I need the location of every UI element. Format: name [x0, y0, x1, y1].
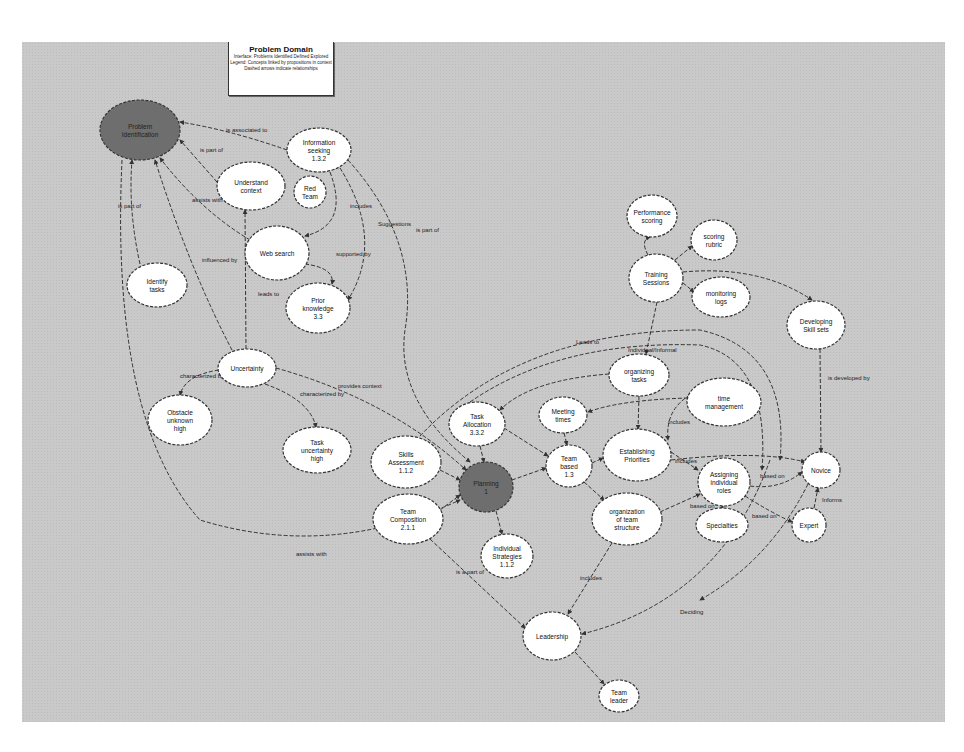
node-identify-tasks[interactable]: Identifytasks [127, 263, 187, 307]
node-red-team[interactable]: RedTeam [294, 176, 326, 208]
node-label: Training [644, 271, 668, 279]
node-organizing-tasks[interactable]: organizingtasks [609, 354, 669, 396]
node-planning[interactable]: Planning1 [459, 462, 513, 512]
node-label: Expert [800, 522, 819, 530]
edge-label: Suggestions [378, 221, 411, 227]
edge-label: assists with [296, 551, 327, 557]
edge-label: is associated to [226, 127, 268, 133]
node-label: Team [302, 193, 318, 200]
edge-training_sessions-to-monitoring_logs [683, 283, 694, 292]
node-label: time [718, 395, 731, 402]
edge-label: includes [580, 575, 602, 581]
edge-label: based on [752, 513, 777, 519]
node-team-composition[interactable]: TeamComposition2.1.1 [373, 494, 443, 544]
edge-label: Individual/Informal [628, 347, 677, 353]
node-label: Team [400, 508, 416, 515]
edge-label: is developed by [828, 375, 870, 381]
node-information-seeking[interactable]: Informationseeking1.3.2 [287, 128, 351, 172]
concept-map: is associated tois part ofassists withis… [0, 0, 964, 752]
edge-label: influenced by [202, 257, 237, 263]
node-obstacle-unknown-high[interactable]: Obstacleunknownhigh [148, 395, 212, 445]
node-label: Identify [147, 278, 169, 286]
node-individual-strategies[interactable]: IndividualStrategies1.1.2 [481, 534, 533, 578]
node-label: times [555, 416, 571, 423]
edge-label: Leads to [576, 339, 600, 345]
title-box: Problem Domain Interface: Problems Ident… [228, 42, 334, 96]
node-label: Obstacle [167, 409, 193, 416]
node-label: 1.1.2 [500, 561, 515, 568]
node-team-leader[interactable]: Teamleader [599, 680, 639, 712]
edge-uncertainty-to-understand_context [245, 210, 246, 349]
edge-label: is a part of [456, 569, 484, 575]
node-label: seeking [308, 147, 331, 155]
node-label: Skills [398, 451, 414, 458]
node-label: unknown [167, 417, 193, 424]
node-specialties[interactable]: Specialties [696, 508, 748, 542]
edge-label: characterized by [300, 391, 344, 397]
node-developing-skill-sets[interactable]: DevelopingSkill sets [787, 301, 845, 349]
node-task-uncertainty-high[interactable]: Taskuncertaintyhigh [283, 427, 351, 473]
node-label: based [560, 463, 578, 470]
node-label: Individual [493, 545, 521, 552]
node-label: Problem [128, 123, 152, 130]
node-leadership[interactable]: Leadership [523, 612, 581, 660]
nodes-layer: ProblemIdentificationInformationseeking1… [100, 100, 845, 712]
node-team-based[interactable]: Teambased1.3 [546, 445, 592, 487]
node-expert[interactable]: Expert [792, 508, 826, 542]
edge-label: Deciding [680, 609, 703, 615]
node-label: high [311, 455, 324, 463]
edge-expert-to-novice [814, 488, 818, 508]
node-establishing-priorities[interactable]: EstablishingPriorities [603, 429, 671, 481]
node-label: scoring [642, 217, 663, 225]
node-task-allocation[interactable]: TaskAllocation3.3.2 [449, 402, 505, 446]
edge-label: provides context [338, 383, 382, 389]
node-label: of team [616, 516, 638, 523]
node-label: uncertainty [301, 447, 334, 455]
node-label: Identification [122, 131, 159, 138]
edge-label: is part of [416, 227, 439, 233]
node-label: Task [310, 439, 324, 446]
node-understand-context[interactable]: Understandcontext [217, 162, 285, 210]
node-label: tasks [631, 376, 647, 383]
node-novice[interactable]: Novice [802, 452, 840, 488]
node-meeting-times[interactable]: Meetingtimes [539, 397, 587, 433]
node-label: tasks [149, 286, 165, 293]
node-label: Meeting [551, 408, 575, 416]
node-organization-of-team-structure[interactable]: organizationof teamstructure [592, 493, 662, 545]
node-label: 3.3.2 [470, 429, 485, 436]
node-performance-scoring[interactable]: Performancescoring [627, 195, 677, 237]
edge-label: assists with [192, 197, 223, 203]
node-label: organizing [624, 368, 654, 376]
edge-task_allocation-to-planning [480, 446, 484, 462]
edge-information_seeking-to-prior_knowledge [340, 168, 365, 300]
node-label: Assessment [388, 459, 424, 466]
node-label: Establishing [619, 448, 654, 456]
node-skills-assessment[interactable]: SkillsAssessment1.1.2 [371, 436, 441, 488]
node-label: context [241, 187, 262, 194]
node-label: Task [470, 413, 484, 420]
node-label: roles [717, 487, 732, 494]
node-assigning-individual-roles[interactable]: Assigningindividualroles [698, 458, 750, 506]
node-label: management [705, 403, 743, 411]
edge-web_search-to-prior_knowledge [305, 264, 332, 284]
edge-meeting_times-to-team_based [564, 433, 567, 445]
node-label: knowledge [302, 305, 333, 313]
edge-leadership-to-team_leader [575, 652, 604, 684]
node-label: logs [715, 298, 728, 306]
node-label: scoring [704, 233, 725, 241]
node-label: Team [561, 455, 577, 462]
node-training-sessions[interactable]: TrainingSessions [629, 254, 683, 302]
node-scoring-rubric[interactable]: scoringrubric [691, 220, 737, 260]
node-label: individual [710, 479, 738, 486]
node-label: Developing [800, 318, 833, 326]
node-label: Prior [311, 297, 326, 304]
node-problem-identification[interactable]: ProblemIdentification [100, 100, 180, 160]
edge-training_sessions-to-performance_scoring [644, 237, 650, 255]
node-uncertainty[interactable]: Uncertainty [218, 349, 276, 387]
node-time-management[interactable]: timemanagement [687, 378, 761, 426]
edge-label: supported by [336, 251, 371, 257]
node-label: Sessions [643, 279, 670, 286]
node-prior-knowledge[interactable]: Priorknowledge3.3 [286, 283, 350, 333]
node-web-search[interactable]: Web search [245, 226, 309, 280]
node-monitoring-logs[interactable]: monitoringlogs [692, 277, 750, 317]
